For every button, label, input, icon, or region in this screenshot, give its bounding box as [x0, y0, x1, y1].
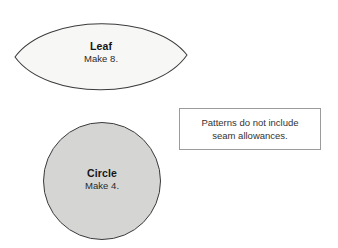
leaf-outline-svg [13, 12, 189, 102]
circle-pattern-shape [43, 122, 161, 240]
note-line-2: seam allowances. [212, 129, 288, 142]
note-line-1: Patterns do not include [201, 116, 298, 129]
seam-allowance-note: Patterns do not include seam allowances. [179, 108, 321, 150]
pattern-sheet: Leaf Make 8. Circle Make 4. Patterns do … [0, 0, 338, 248]
leaf-outline-path [15, 24, 187, 90]
leaf-pattern-shape [13, 12, 189, 102]
